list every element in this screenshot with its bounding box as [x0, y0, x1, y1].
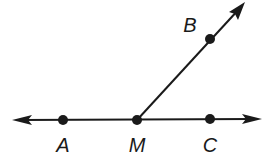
label-b: B: [183, 14, 196, 36]
point-c: [205, 114, 215, 124]
label-c: C: [203, 134, 218, 156]
label-a: A: [55, 134, 69, 156]
point-a: [58, 115, 68, 125]
points: [58, 34, 215, 125]
point-b: [205, 34, 215, 44]
label-m: M: [129, 134, 146, 156]
point-m: [132, 115, 142, 125]
labels: A M C B: [55, 14, 217, 156]
angle-diagram: A M C B: [0, 0, 275, 163]
